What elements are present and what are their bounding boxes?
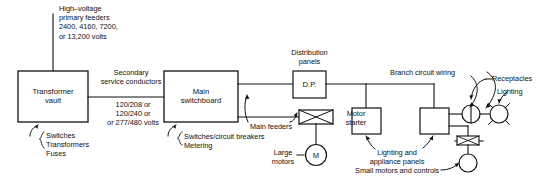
lighting-appliance-panels-label: Lighting and appliance panels xyxy=(361,148,433,166)
lighting-ray-sw xyxy=(489,120,493,124)
receptacles-label: Receptacles xyxy=(492,74,532,83)
electrical-distribution-diagram: High–voltage primary feeders 2400, 4160,… xyxy=(0,0,539,183)
vault-callout-brace xyxy=(40,132,45,148)
transformer-vault-label: Transformer vault xyxy=(18,87,88,106)
small-motors-controls-label: Small motors and controls xyxy=(355,166,439,175)
lighting-panels-arrowhead-right xyxy=(429,136,433,141)
receptacles-leader xyxy=(471,79,486,99)
large-motors-label: Large motors xyxy=(266,148,300,166)
primary-feeders-label: High–voltage primary feeders 2400, 4160,… xyxy=(59,4,118,41)
secondary-voltages-label: 120/208 or 120/240 or or 277/480 volts xyxy=(92,100,174,128)
lighting-ray-se xyxy=(505,120,509,124)
main-switchboard-label: Main switchboard xyxy=(164,87,238,106)
branch-wiring-leader-b xyxy=(470,76,477,107)
main-switchboard-contents-label: Switches/circuit breakers Metering xyxy=(184,132,264,150)
secondary-service-conductors-label: Secondary service conductors xyxy=(92,68,170,86)
switchboard-callout-brace xyxy=(178,132,183,145)
lighting-ray-ne xyxy=(505,104,509,108)
distribution-panels-label: Distribution panels xyxy=(280,48,339,66)
lighting-appliance-panel-2-box xyxy=(420,108,449,134)
main-feeders-label: Main feeders xyxy=(250,122,292,131)
branch-circuit-wiring-label: Branch circuit wiring xyxy=(390,68,455,77)
transformer-vault-contents-label: Switches Transformers Fuses xyxy=(46,131,89,159)
large-motor-letter: M xyxy=(306,151,326,160)
distribution-panel-abbrev: D.P. xyxy=(293,80,326,89)
small-motor-symbol xyxy=(459,154,477,172)
lighting-label: Lighting xyxy=(497,87,523,96)
motor-starter-label: Motor starter xyxy=(336,109,376,127)
